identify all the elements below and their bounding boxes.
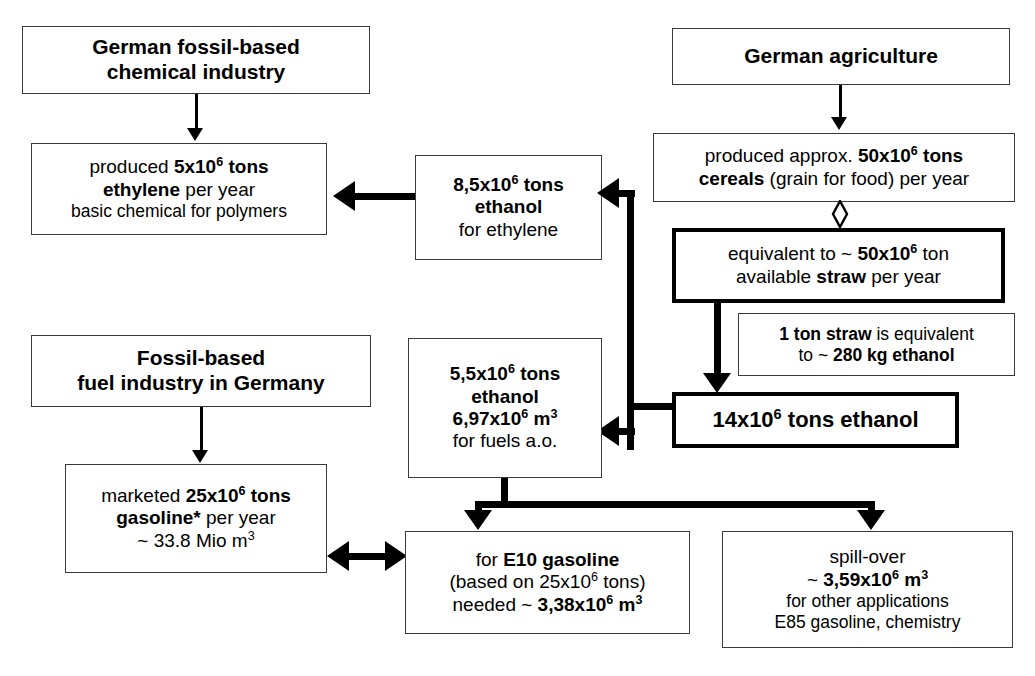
ethylene-line1-bold2: tons	[223, 156, 268, 177]
connector-gasoline-to-e10-arrowhead-left	[327, 541, 349, 571]
connector-bus-to-spillover-arrowhead	[857, 510, 885, 530]
gasoline-line-2: gasoline* per year	[116, 507, 275, 529]
straw-line2-bold: straw	[816, 266, 866, 287]
ethanol-fuels-line1-bold: 5,5x10	[450, 363, 508, 384]
straw-conversion-line1-post: is equivalent	[872, 324, 974, 344]
straw-line1-pre: equivalent to ~	[728, 243, 857, 264]
e10-line-2: (based on 25x106 tons)	[449, 571, 645, 593]
connector-bus-to-ethanol-ethylene-arrowhead	[597, 178, 619, 208]
box-straw: equivalent to ~ 50x106 ton available str…	[672, 228, 1005, 303]
cereals-line2-bold: cereals	[699, 168, 765, 189]
e10-line2-pre: (based on 25x10	[449, 571, 591, 592]
ethylene-line2-bold: ethylene	[103, 179, 180, 200]
ethanol-total-line1-sup: 6	[774, 406, 782, 422]
straw-line2-pre: available	[736, 266, 816, 287]
straw-line-2: available straw per year	[736, 266, 941, 288]
ethylene-line2-post: per year	[180, 179, 255, 200]
agriculture-line-1: German agriculture	[744, 44, 938, 69]
connector-straw-to-ethanol-total-arrowhead	[703, 373, 731, 393]
gasoline-line3-pre: ~ 33.8 Mio m	[137, 530, 247, 551]
gasoline-line1-pre: marketed	[101, 485, 185, 506]
connector-ethanol-fuels-bus-horizontal	[475, 501, 875, 508]
e10-line-1: for E10 gasoline	[476, 549, 620, 571]
ethanol-fuels-line3-sup2: 3	[550, 407, 557, 421]
e10-line2-sup: 6	[591, 570, 598, 584]
connector-agriculture-to-cereals-line	[839, 85, 842, 117]
spillover-line2-pre: ~	[807, 569, 823, 590]
diagram-canvas: German fossil-based chemical industry pr…	[0, 0, 1035, 676]
connector-ethanol-bus-vertical	[627, 190, 634, 450]
e10-line3-bold: 3,38x10	[538, 594, 607, 615]
cereals-line1-pre: produced approx.	[705, 145, 858, 166]
cereals-line-2: cereals (grain for food) per year	[699, 168, 969, 190]
e10-line-3: needed ~ 3,38x106 m3	[453, 594, 643, 616]
connector-bus-to-e10-arrowhead	[464, 510, 492, 530]
connector-chemical-to-ethylene-line	[195, 94, 198, 128]
gasoline-line2-post: per year	[201, 507, 276, 528]
box-cereals: produced approx. 50x106 tons cereals (gr…	[653, 133, 1015, 202]
ethanol-ethylene-line-3: for ethylene	[459, 219, 558, 241]
straw-line2-post: per year	[866, 266, 941, 287]
box-spillover: spill-over ~ 3,59x106 m3 for other appli…	[722, 531, 1013, 648]
e10-line1-pre: for	[476, 549, 503, 570]
ethanol-fuels-line3-bold2: m	[528, 408, 550, 429]
cereals-line1-bold2: tons	[918, 145, 963, 166]
ethanol-fuels-line-1: 5,5x106 tons	[450, 363, 561, 385]
spillover-line2-sup: 6	[892, 568, 899, 582]
fuel-industry-line-2: fuel industry in Germany	[77, 371, 324, 396]
cereals-line1-sup: 6	[911, 144, 918, 158]
spillover-line-2: ~ 3,59x106 m3	[807, 569, 928, 591]
gasoline-line1-bold2: tons	[245, 485, 290, 506]
connector-chemical-to-ethylene-arrowhead	[187, 128, 203, 141]
ethanol-ethylene-line-1: 8,5x106 tons	[453, 174, 564, 196]
ethanol-ethylene-line1-bold: 8,5x10	[453, 174, 511, 195]
connector-bus-to-ethanol-fuels-line	[617, 428, 635, 435]
box-agriculture: German agriculture	[672, 28, 1010, 85]
ethanol-total-line-1: 14x106 tons ethanol	[712, 407, 918, 433]
straw-line1-post: ton	[917, 243, 949, 264]
ethylene-line-3: basic chemical for polymers	[71, 201, 287, 222]
e10-line3-bold2: m	[613, 594, 635, 615]
connector-gasoline-to-e10-line	[345, 553, 390, 560]
connector-gasoline-to-e10-arrowhead-right	[385, 541, 407, 571]
ethanol-fuels-line-2: ethanol	[471, 386, 539, 408]
chemical-industry-line-1: German fossil-based	[92, 35, 300, 60]
ethanol-fuels-line1-bold2: tons	[515, 363, 560, 384]
spillover-line-4: E85 gasoline, chemistry	[775, 612, 961, 633]
connector-bus-to-ethanol-ethylene-line	[617, 190, 635, 197]
cereals-line-1: produced approx. 50x106 tons	[705, 145, 963, 167]
box-ethanol-fuels: 5,5x106 tons ethanol 6,97x106 m3 for fue…	[408, 338, 602, 478]
straw-line-1: equivalent to ~ 50x106 ton	[728, 243, 949, 265]
cereals-line2-post: (grain for food) per year	[764, 168, 969, 189]
box-ethanol-total: 14x106 tons ethanol	[672, 392, 959, 448]
e10-line3-sup2: 3	[635, 592, 642, 606]
ethylene-line1-pre: produced	[89, 156, 174, 177]
e10-line3-pre: needed ~	[453, 594, 538, 615]
box-ethanol-ethylene: 8,5x106 tons ethanol for ethylene	[415, 155, 602, 260]
connector-cereals-to-straw-diamond	[827, 200, 853, 228]
gasoline-line1-bold: 25x10	[186, 485, 239, 506]
connector-agriculture-to-cereals-arrowhead	[831, 117, 847, 130]
box-fuel-industry: Fossil-based fuel industry in Germany	[31, 335, 371, 407]
straw-conversion-line2-pre: to ~	[798, 345, 833, 365]
cereals-line1-bold: 50x10	[858, 145, 911, 166]
ethanol-fuels-line-4: for fuels a.o.	[453, 430, 558, 452]
spillover-line2-bold: 3,59x10	[823, 569, 892, 590]
e10-line2-post: tons)	[598, 571, 646, 592]
spillover-line2-sup2: 3	[921, 568, 928, 582]
connector-ethanol-to-ethylene-arrowhead	[333, 181, 355, 211]
straw-line1-bold: 50x10	[857, 243, 910, 264]
ethylene-line-1: produced 5x106 tons	[89, 156, 268, 178]
chemical-industry-line-2: chemical industry	[107, 60, 286, 85]
straw-conversion-line-1: 1 ton straw is equivalent	[779, 324, 974, 345]
connector-ethanol-to-ethylene-line	[355, 193, 415, 200]
spillover-line2-bold2: m	[899, 569, 921, 590]
gasoline-line-1: marketed 25x106 tons	[101, 485, 291, 507]
straw-conversion-line-2: to ~ 280 kg ethanol	[798, 345, 954, 366]
box-e10: for E10 gasoline (based on 25x106 tons) …	[405, 531, 690, 634]
gasoline-line3-sup: 3	[248, 528, 255, 542]
connector-fuel-industry-to-gasoline-arrowhead	[192, 450, 208, 463]
gasoline-line2-bold: gasoline*	[116, 507, 200, 528]
ethanol-total-line1-bold2: tons ethanol	[782, 407, 919, 432]
box-chemical-industry: German fossil-based chemical industry	[22, 26, 370, 94]
